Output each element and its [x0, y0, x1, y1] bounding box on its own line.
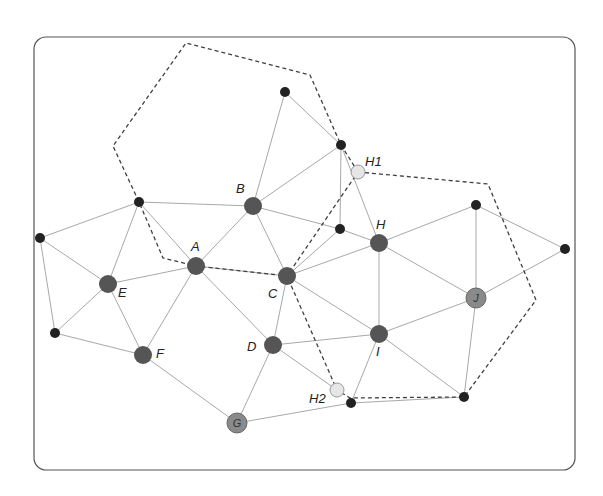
node-label-a: A [190, 239, 200, 254]
node-s9 [346, 398, 356, 408]
node-label-d: D [247, 339, 256, 354]
edge-I-s9 [351, 334, 379, 403]
edge-C-I [287, 276, 379, 334]
edge-D-G [237, 345, 273, 423]
edge-J-I [379, 298, 476, 334]
edge-D-H2 [273, 345, 337, 390]
edge-J-s10 [464, 298, 476, 397]
node-s2 [336, 140, 346, 150]
network-diagram: ABCDEFGHIJH1H2 [0, 0, 603, 496]
node-label-b: B [236, 181, 245, 196]
edge-J-s8 [476, 249, 565, 298]
edge-E-s5 [55, 284, 108, 333]
node-i [370, 325, 388, 343]
node-s3 [134, 197, 144, 207]
edge-A-B [196, 206, 253, 266]
node-a [187, 257, 205, 275]
edge-s1-s2 [285, 92, 341, 145]
edge-F-G [143, 355, 237, 423]
edge-s3-B [139, 202, 253, 206]
edge-B-s2 [253, 145, 341, 206]
edge-C-H [287, 243, 379, 276]
edge-I-D [273, 334, 379, 345]
node-s7 [471, 200, 481, 210]
node-label-i: I [376, 344, 380, 359]
edge-H-J [379, 243, 476, 298]
node-label-e: E [118, 285, 127, 300]
node-d [264, 336, 282, 354]
node-b [244, 197, 262, 215]
node-label-c: C [268, 286, 278, 301]
edge-B-s1 [253, 92, 285, 206]
edge-A-F [143, 266, 196, 355]
edge-G-s9 [237, 403, 351, 423]
node-label-h2: H2 [309, 391, 326, 406]
node-s4 [35, 233, 45, 243]
edge-s4-s5 [40, 238, 55, 333]
node-label-h: H [376, 217, 386, 232]
edge-s4-E [40, 238, 108, 284]
dashed-cell-top-left [113, 43, 358, 276]
node-s8 [560, 244, 570, 254]
edge-B-C [253, 206, 287, 276]
nodes-layer [35, 87, 570, 433]
edge-E-A [108, 266, 196, 284]
diagram-frame [34, 37, 575, 470]
edge-I-s10 [379, 334, 464, 397]
node-label-h1: H1 [365, 154, 382, 169]
labels-layer: ABCDEFGHIJH1H2 [118, 154, 479, 429]
node-s5 [50, 328, 60, 338]
node-c [278, 267, 296, 285]
node-h [370, 234, 388, 252]
edge-s2-s6 [340, 145, 341, 229]
node-f [134, 346, 152, 364]
node-h1 [351, 165, 365, 179]
edge-s3-A [139, 202, 196, 266]
node-label-g: G [233, 417, 242, 429]
node-s6 [335, 224, 345, 234]
node-s10 [459, 392, 469, 402]
edge-s4-s3 [40, 202, 139, 238]
edges-layer [40, 92, 565, 423]
edge-s5-F [55, 333, 143, 355]
edge-s3-E [108, 202, 139, 284]
dashed-cells-layer [113, 43, 536, 398]
edge-H-s7 [379, 205, 476, 243]
node-h2 [330, 383, 344, 397]
node-s1 [280, 87, 290, 97]
edge-s7-s8 [476, 205, 565, 249]
edge-A-D [196, 266, 273, 345]
node-label-j: J [472, 292, 479, 304]
node-e [99, 275, 117, 293]
node-label-f: F [156, 346, 165, 361]
